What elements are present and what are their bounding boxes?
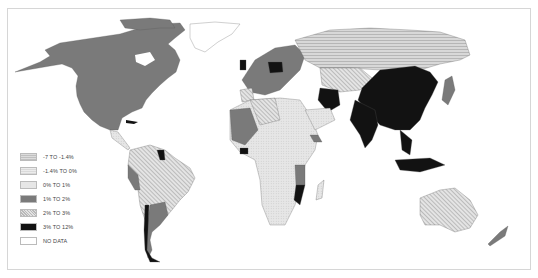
legend-item: NO DATA <box>20 234 77 248</box>
legend-label: 1% TO 2% <box>43 196 70 202</box>
legend-item: 1% TO 2% <box>20 192 77 206</box>
legend-label: -7 TO -1.4% <box>43 154 74 160</box>
north-america <box>15 18 185 130</box>
legend-swatch-icon <box>20 209 37 217</box>
africa <box>230 98 335 225</box>
new-zealand <box>488 226 508 246</box>
legend-label: 0% TO 1% <box>43 182 70 188</box>
legend-label: 3% TO 12% <box>43 224 73 230</box>
legend-label: 2% TO 3% <box>43 210 70 216</box>
legend-label: NO DATA <box>43 238 67 244</box>
australia <box>420 188 478 232</box>
russia <box>295 28 470 72</box>
legend-item: -7 TO -1.4% <box>20 150 77 164</box>
legend-item: 3% TO 12% <box>20 220 77 234</box>
world-map <box>0 0 538 278</box>
legend-swatch-icon <box>20 167 37 175</box>
map-legend: -7 TO -1.4% -1.4% TO 0% 0% TO 1% 1% TO 2… <box>20 150 77 248</box>
south-america <box>128 145 195 262</box>
madagascar <box>316 180 324 200</box>
greenland <box>190 22 240 52</box>
legend-item: 0% TO 1% <box>20 178 77 192</box>
legend-swatch-icon <box>20 237 37 245</box>
legend-label: -1.4% TO 0% <box>43 168 77 174</box>
japan <box>442 76 455 105</box>
legend-swatch-icon <box>20 195 37 203</box>
central-america <box>110 130 130 150</box>
legend-swatch-icon <box>20 223 37 231</box>
legend-swatch-icon <box>20 153 37 161</box>
legend-swatch-icon <box>20 181 37 189</box>
legend-item: 2% TO 3% <box>20 206 77 220</box>
legend-item: -1.4% TO 0% <box>20 164 77 178</box>
europe <box>240 45 305 102</box>
